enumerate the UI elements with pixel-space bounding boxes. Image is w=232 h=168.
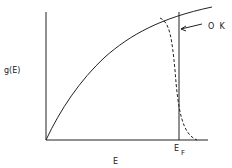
fermi-level-subscript: F — [181, 149, 185, 157]
fermi-level-label: E — [174, 144, 179, 153]
annotation-label: O K — [208, 22, 225, 31]
x-axis-label: E — [113, 157, 118, 166]
dos-diagram: O K g(E) E E F — [0, 0, 232, 168]
y-axis-label: g(E) — [4, 66, 20, 75]
dos-curve — [46, 7, 212, 140]
annotation-arrow — [181, 24, 202, 29]
